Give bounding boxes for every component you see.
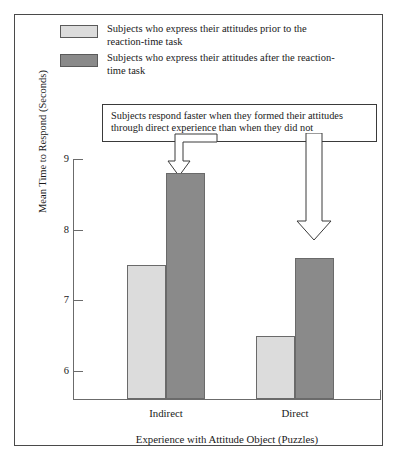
legend-label-after: Subjects who express their attitudes aft…: [107, 52, 343, 77]
x-group-label-indirect: Indirect: [121, 407, 211, 419]
plot-area: 9 8 7 6 Mean Time to Respond (Seconds) I…: [73, 159, 381, 399]
y-tick-label-8: 8: [51, 225, 69, 236]
y-tick-label-6: 6: [51, 366, 69, 377]
bar-direct-after: [295, 258, 334, 399]
x-axis-title: Experience with Attitude Object (Puzzles…: [73, 433, 381, 445]
y-tick-8: [74, 230, 83, 231]
y-tick-7: [74, 300, 83, 301]
legend-label-prior: Subjects who express their attitudes pri…: [107, 23, 343, 48]
bar-indirect-prior: [127, 265, 166, 399]
x-group-label-direct: Direct: [250, 407, 340, 419]
y-tick-6: [74, 371, 83, 372]
y-axis-title: Mean Time to Respond (Seconds): [37, 63, 48, 213]
x-axis-line: [73, 399, 381, 400]
legend: Subjects who express their attitudes pri…: [60, 23, 360, 81]
figure-frame: Subjects who express their attitudes pri…: [14, 14, 383, 446]
annotation-text: Subjects respond faster when they formed…: [111, 110, 369, 135]
bar-direct-prior: [256, 336, 295, 400]
legend-item-prior: Subjects who express their attitudes pri…: [60, 23, 360, 48]
x-axis-end-tick: [380, 390, 381, 399]
legend-swatch-light-gray-icon: [60, 25, 98, 38]
y-axis-line: [73, 159, 74, 399]
y-tick-9: [74, 159, 83, 160]
y-tick-label-7: 7: [51, 295, 69, 306]
legend-item-after: Subjects who express their attitudes aft…: [60, 52, 360, 77]
y-tick-label-9: 9: [51, 154, 69, 165]
legend-swatch-dark-gray-icon: [60, 54, 98, 67]
bar-indirect-after: [166, 173, 205, 399]
